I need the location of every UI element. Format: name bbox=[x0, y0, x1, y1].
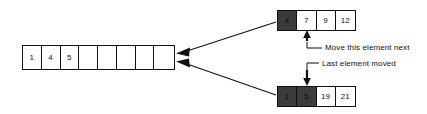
diagram-canvas: 1 4 5 4 7 9 12 1 5 19 21 Move this eleme… bbox=[0, 0, 427, 114]
array-cell: 9 bbox=[317, 11, 336, 30]
array-cell-highlighted: 5 bbox=[297, 87, 316, 106]
array-cell: 19 bbox=[317, 87, 336, 106]
array-cell-highlighted: 4 bbox=[278, 11, 297, 30]
merged-output-array: 1 4 5 bbox=[22, 45, 175, 70]
array-cell: 5 bbox=[61, 46, 80, 69]
array-cell bbox=[136, 46, 155, 69]
array-cell: 7 bbox=[297, 11, 316, 30]
array-cell bbox=[98, 46, 117, 69]
array-cell bbox=[79, 46, 98, 69]
annotation-last-moved: Last element moved bbox=[322, 60, 396, 68]
array-cell: 4 bbox=[42, 46, 61, 69]
array-cell: 21 bbox=[336, 87, 355, 106]
source-array-top: 4 7 9 12 bbox=[277, 10, 356, 31]
array-cell-highlighted: 1 bbox=[278, 87, 297, 106]
arrow-top-to-destination bbox=[176, 22, 276, 57]
array-cell bbox=[117, 46, 136, 69]
callout-move-next-pointer bbox=[303, 30, 322, 48]
annotation-move-next: Move this element next bbox=[325, 44, 409, 52]
array-cell bbox=[154, 46, 174, 69]
source-array-bottom: 1 5 19 21 bbox=[277, 86, 356, 107]
array-cell: 12 bbox=[336, 11, 355, 30]
array-cell: 1 bbox=[23, 46, 42, 69]
arrow-bottom-to-destination bbox=[176, 59, 276, 96]
callout-last-moved-pointer bbox=[303, 63, 319, 86]
